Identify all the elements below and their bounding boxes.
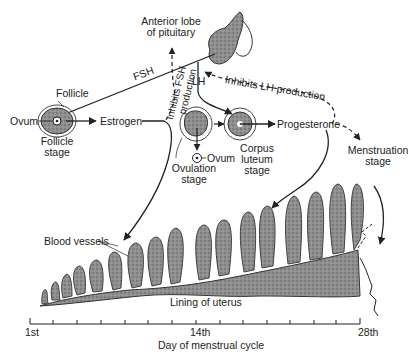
pituitary-label: Anterior lobe of pituitary: [136, 16, 206, 38]
menstruation-arrow: [374, 186, 383, 244]
axis-tick-1st: 1st: [25, 327, 39, 338]
pituitary-gland-icon: [209, 12, 253, 64]
corpus-label-line3: stage: [235, 165, 279, 176]
lining-of-uterus-label: Lining of uterus: [170, 297, 242, 308]
lh-arrow: [198, 62, 232, 114]
axis-tick-28th: 28th: [358, 327, 378, 338]
pituitary-label-line2: of pituitary: [136, 27, 206, 38]
menstruation-line2: stage: [344, 156, 412, 167]
follicle-label: Follicle: [56, 88, 89, 99]
ovum-label: Ovum: [10, 116, 38, 127]
axis-label: Day of menstrual cycle: [158, 340, 264, 351]
blood-vessels-label: Blood vessels: [44, 236, 109, 247]
axis-tick-14th: 14th: [190, 327, 210, 338]
estrogen-to-uterus-arrow: [124, 121, 171, 240]
corpus-luteum-stage-label: Corpus luteum stage: [235, 143, 279, 176]
progesterone-label: Progesterone: [277, 119, 340, 130]
ovulation-stage-line2: stage: [168, 174, 220, 185]
ovulation-stage-label: Ovulation stage: [168, 163, 220, 185]
menstruation-stage-label: Menstruation stage: [344, 145, 412, 167]
estrogen-label: Estrogen: [100, 116, 142, 127]
follicle-stage-label: Follicle stage: [34, 136, 80, 158]
follicle-stage-line2: stage: [34, 147, 80, 158]
x-axis: [30, 318, 360, 324]
